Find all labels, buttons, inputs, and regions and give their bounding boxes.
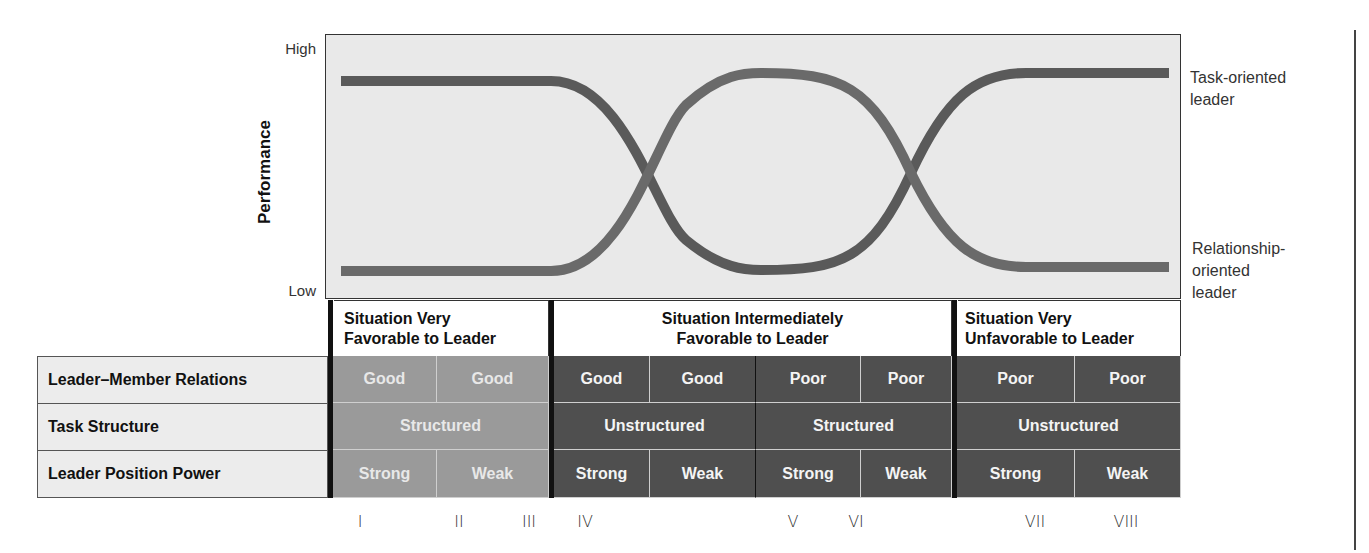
cell-power-V: Strong: [756, 450, 861, 498]
situation-2-line2: Favorable to Leader: [676, 329, 828, 349]
plot-area: [325, 34, 1181, 299]
cell-structure-V-VI: Structured: [756, 403, 952, 450]
relationship-oriented-curve: [341, 73, 1169, 271]
performance-curves: [326, 35, 1182, 300]
legend-rel-line3: leader: [1192, 282, 1332, 304]
row-label-task-structure: Task Structure: [37, 403, 328, 450]
y-axis-high-label: High: [256, 40, 316, 57]
page-divider-line: [1354, 30, 1356, 550]
legend-relationship-oriented: Relationship- oriented leader: [1192, 238, 1332, 304]
cell-power-VII: Strong: [957, 450, 1075, 498]
situation-1-line2: Favorable to Leader: [344, 329, 548, 349]
legend-rel-line2: oriented: [1192, 260, 1332, 282]
cell-relations-IV: Good: [650, 356, 756, 403]
y-axis-low-label: Low: [256, 282, 316, 299]
situation-intermediate-header: Situation Intermediately Favorable to Le…: [554, 300, 952, 356]
category-label-I: I: [330, 512, 390, 531]
cell-power-I: Strong: [333, 450, 437, 498]
cell-relations-II: Good: [437, 356, 549, 403]
cell-structure-VII-VIII: Unstructured: [957, 403, 1181, 450]
category-label-VII: VII: [1005, 512, 1065, 531]
cell-power-IV: Weak: [650, 450, 756, 498]
legend-task-oriented: Task-oriented leader: [1190, 67, 1330, 111]
situation-3-line1: Situation Very: [965, 309, 1180, 329]
cell-power-III: Strong: [554, 450, 650, 498]
cell-power-VI: Weak: [861, 450, 952, 498]
cell-relations-VIII: Poor: [1075, 356, 1181, 403]
category-label-V: V: [763, 512, 823, 531]
category-label-VI: VI: [826, 512, 886, 531]
cell-relations-I: Good: [333, 356, 437, 403]
cell-structure-III-IV: Unstructured: [554, 403, 756, 450]
legend-rel-line1: Relationship-: [1192, 238, 1332, 260]
situation-very-favorable-header: Situation Very Favorable to Leader: [334, 300, 549, 356]
cell-relations-VI: Poor: [861, 356, 952, 403]
cell-relations-VII: Poor: [957, 356, 1075, 403]
cell-relations-III: Good: [554, 356, 650, 403]
situation-3-line2: Unfavorable to Leader: [965, 329, 1180, 349]
task-oriented-curve: [341, 73, 1169, 270]
cell-relations-V: Poor: [756, 356, 861, 403]
cell-structure-I-II: Structured: [333, 403, 549, 450]
y-axis-title: Performance: [255, 102, 275, 242]
category-label-III: III: [499, 512, 559, 531]
cell-power-II: Weak: [437, 450, 549, 498]
row-label-leader-member-relations: Leader–Member Relations: [37, 356, 328, 403]
category-label-VIII: VIII: [1096, 512, 1156, 531]
cell-power-VIII: Weak: [1075, 450, 1181, 498]
situation-1-line1: Situation Very: [344, 309, 548, 329]
row-label-leader-position-power: Leader Position Power: [37, 450, 328, 498]
category-label-II: II: [429, 512, 489, 531]
situation-2-line1: Situation Intermediately: [662, 309, 843, 329]
situation-very-unfavorable-header: Situation Very Unfavorable to Leader: [958, 300, 1181, 356]
legend-task-line2: leader: [1190, 89, 1330, 111]
category-label-IV: IV: [555, 512, 615, 531]
legend-task-line1: Task-oriented: [1190, 67, 1330, 89]
